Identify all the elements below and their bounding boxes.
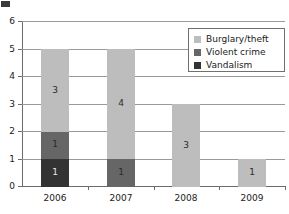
x-axis-tick-label: 2008 [163,193,209,203]
bar-segment: 1 [107,159,135,187]
y-axis-tick [18,21,22,22]
bar-segment: 3 [172,104,200,187]
y-axis-tick-label: 1 [1,155,15,164]
y-axis-tick-label: 0 [1,182,15,191]
y-axis-tick-label: 2 [1,127,15,136]
bar-segment: 3 [41,49,69,132]
x-axis-tick [219,186,220,190]
bar-segment: 4 [107,49,135,159]
x-axis-tick-label: 2006 [32,193,78,203]
x-axis-tick [154,186,155,190]
legend-label-burglary-theft: Burglary/theft [206,35,269,44]
bar-segment: 1 [238,159,266,187]
y-axis-tick [18,131,22,132]
bar-value-label: 4 [107,99,135,108]
legend-item-burglary-theft: Burglary/theft [194,33,279,45]
bar-value-label: 3 [41,86,69,95]
legend-item-violent-crime: Violent crime [194,46,279,58]
bar-value-label: 1 [41,168,69,177]
x-axis-tick-label: 2009 [229,193,275,203]
y-axis-tick-label: 3 [1,100,15,109]
bar-value-label: 1 [107,168,135,177]
bar-value-label: 1 [41,140,69,149]
y-axis-tick [18,76,22,77]
legend-swatch-violent-crime [194,49,201,56]
legend-item-vandalism: Vandalism [194,59,279,71]
x-axis-tick [285,186,286,190]
x-axis-tick-label: 2007 [98,193,144,203]
stacked-bar-chart: 0123456 1131431 2006200720082009 Burglar… [0,0,289,214]
legend-swatch-vandalism [194,62,201,69]
bar-segment: 1 [41,159,69,187]
chart-legend: Burglary/theft Violent crime Vandalism [188,28,285,72]
gridline [22,21,285,22]
legend-label-violent-crime: Violent crime [206,48,266,57]
bar-segment: 1 [41,131,69,159]
bar-value-label: 1 [238,168,266,177]
y-axis-tick [18,104,22,105]
legend-label-vandalism: Vandalism [206,61,252,70]
y-axis-tick-label: 6 [1,17,15,26]
y-axis-tick [18,159,22,160]
legend-swatch-burglary-theft [194,36,201,43]
y-axis-tick [18,186,22,187]
x-axis-tick [88,186,89,190]
y-axis-tick-label: 4 [1,72,15,81]
y-axis-tick [18,49,22,50]
bar-value-label: 3 [172,141,200,150]
y-axis-tick-label: 5 [1,45,15,54]
corner-artifact [1,1,10,7]
